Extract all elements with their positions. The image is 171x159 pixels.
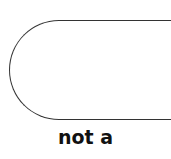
shape-caption: not a — [0, 126, 171, 148]
terminator-shape — [9, 20, 171, 120]
